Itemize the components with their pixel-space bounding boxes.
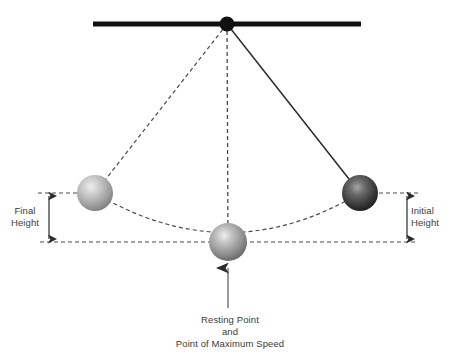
final-height-label-line2: Height [4,217,46,229]
resting-point-label-line1: Resting Point [147,314,313,326]
final-height-label-line1: Final [4,205,46,217]
pendulum-diagram: Final Height Initial Height Resting Poin… [0,0,454,364]
initial-height-label-line2: Height [411,217,453,229]
string-right-solid [227,24,360,193]
resting-point-label-line3: Point of Maximum Speed [147,338,313,350]
pivot-point [220,17,235,32]
initial-height-label-line1: Initial [411,205,453,217]
bob-center-resting-position [209,223,247,261]
initial-height-label: Initial Height [411,205,453,229]
bob-right-initial-position [342,175,378,211]
string-left-dashed [95,24,227,193]
string-center-dashed [227,24,228,242]
diagram-canvas [0,0,454,364]
resting-point-label-line2: and [147,326,313,338]
bob-left-final-position [77,175,113,211]
final-height-label: Final Height [4,205,46,229]
resting-point-label: Resting Point and Point of Maximum Speed [147,314,313,350]
